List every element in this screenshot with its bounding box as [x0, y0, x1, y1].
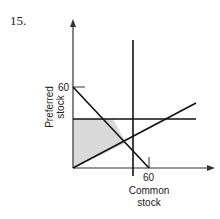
- x-axis-label-line2: stock: [137, 197, 161, 208]
- x-axis-arrow-icon: [207, 165, 215, 171]
- x-tick-label: 60: [143, 172, 155, 183]
- y-axis-label-line2: stock: [55, 94, 66, 118]
- y-tick-label: 60: [58, 82, 70, 93]
- y-axis-label-line1: Preferred: [44, 86, 55, 128]
- lp-graph: 60 60 Preferred stock Common stock: [0, 0, 220, 219]
- x-axis-label-line1: Common: [129, 185, 170, 196]
- y-axis-arrow-icon: [70, 19, 76, 27]
